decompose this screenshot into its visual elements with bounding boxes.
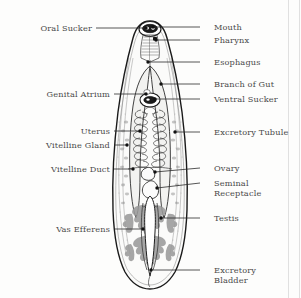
label-branch-of-gut: Branch of Gut [214,79,275,89]
label-testis: Testis [214,213,239,223]
leader-dot-testis [159,216,162,219]
leader-dot-oral-sucker [144,26,147,29]
leader-dot-excretory-bladder [149,268,152,271]
label-excretory-bladder-2-line2: Bladder [214,275,248,285]
label-mouth: Mouth [214,22,242,32]
label-genital-atrium: Genital Atrium [47,89,110,99]
label-excretory-tubule: Excretory Tubule [214,127,288,137]
label-uterus: Uterus [81,126,110,136]
ventral-sucker-highlight [146,98,149,100]
label-esophagus: Esophagus [214,57,261,67]
label-pharynx: Pharynx [214,35,249,45]
leader-dot-branch-of-gut [159,82,162,85]
ovary-group [141,167,155,180]
label-seminal-receptacle-line2: Receptacle [214,188,261,198]
leader-dot-uterus [138,129,141,132]
leader-dot-vitelline-duct [131,167,134,170]
leader-dot-mouth [151,25,154,28]
label-ovary: Ovary [214,163,240,173]
fluke-anatomy-figure: Oral SuckerGenital AtriumUterusVitelline… [0,0,301,298]
label-vitelline-duct: Vitelline Duct [50,164,110,174]
ovary [141,167,155,180]
label-seminal-receptacle-line1: Seminal [214,178,249,188]
leader-dot-pharynx [154,38,157,41]
leader-dot-ventral-sucker [153,97,156,100]
leader-dot-vas-efferens [141,227,144,230]
label-oral-sucker: Oral Sucker [40,23,92,33]
ventral-sucker-group [140,93,160,107]
leader-dot-esophagus [146,60,149,63]
label-vitelline-gland: Vitelline Gland [45,140,110,150]
oral-sucker-group [139,22,161,37]
label-excretory-bladder-2-line1: Excretory [214,265,256,275]
leader-dot-excretory-tubule [173,130,176,133]
leader-dot-seminal-receptacle [155,186,158,189]
label-ventral-sucker: Ventral Sucker [213,94,278,104]
leader-dot-ovary [153,170,156,173]
leader-dot-genital-atrium [144,92,147,95]
leader-dot-vitelline-gland [125,143,128,146]
label-vas-efferens: Vas Efferens [55,224,110,234]
